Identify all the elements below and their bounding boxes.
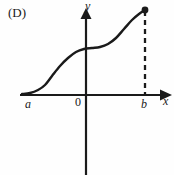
origin-label: 0	[75, 96, 81, 108]
x-axis-label: x	[163, 95, 168, 107]
multiple-choice-graph-figure: (D) y x a 0 b	[0, 0, 174, 175]
x-axis	[20, 90, 172, 101]
choice-label: (D)	[8, 6, 26, 19]
y-axis	[81, 8, 92, 175]
graph-canvas	[0, 0, 174, 175]
endpoint-dot	[142, 7, 149, 14]
y-axis-label: y	[85, 0, 90, 12]
function-curve	[22, 10, 145, 94]
x-tick-label-a: a	[25, 98, 31, 110]
x-tick-label-b: b	[141, 98, 147, 110]
